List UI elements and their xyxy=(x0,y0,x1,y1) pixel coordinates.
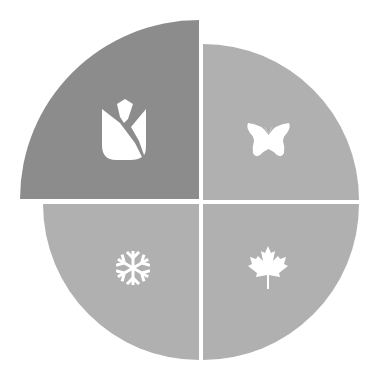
snowflake-icon xyxy=(116,251,150,285)
tulip-icon xyxy=(100,97,148,161)
quadrant-summer[interactable] xyxy=(203,44,359,200)
butterfly-icon xyxy=(246,123,291,159)
maple-leaf-icon xyxy=(248,246,288,289)
